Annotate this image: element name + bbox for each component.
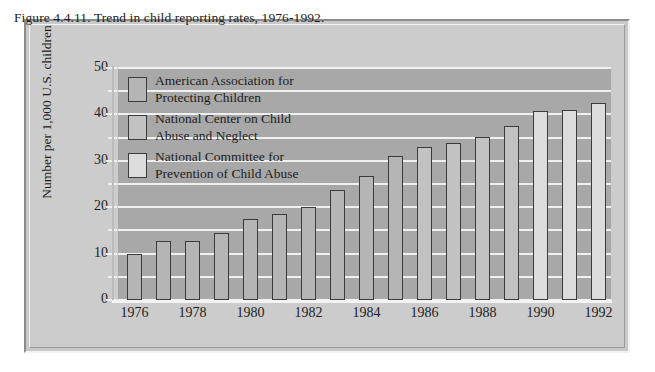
y-axis-line	[112, 66, 114, 302]
legend-swatch-1	[128, 115, 147, 140]
y-tick-label-20: 20	[74, 198, 108, 214]
bar-1980[interactable]	[243, 219, 259, 300]
y-tick-label-50: 50	[74, 59, 108, 75]
x-tick-label-1980: 1980	[237, 305, 265, 321]
bar-1977[interactable]	[156, 241, 172, 300]
bar-1987[interactable]	[446, 143, 462, 300]
bar-1981[interactable]	[272, 214, 288, 300]
y-tick-label-0: 0	[74, 291, 108, 307]
bar-1983[interactable]	[330, 190, 346, 300]
legend-label-1: National Center on Child Abuse and Negle…	[155, 111, 291, 144]
bar-1978[interactable]	[185, 241, 201, 300]
x-tick-label-1986: 1986	[411, 305, 439, 321]
legend-label-0: American Association for Protecting Chil…	[155, 73, 294, 106]
bar-1979[interactable]	[214, 233, 230, 300]
x-tick-label-1978: 1978	[179, 305, 207, 321]
legend-item-1[interactable]: National Center on Child Abuse and Negle…	[128, 112, 388, 145]
x-axis-tick-labels: 197619781980198219841986198819901992	[118, 305, 611, 327]
x-tick-label-1988: 1988	[469, 305, 497, 321]
bar-1982[interactable]	[301, 207, 317, 300]
x-tick-label-1982: 1982	[295, 305, 323, 321]
x-tick-label-1992: 1992	[585, 305, 613, 321]
bar-1976[interactable]	[127, 254, 143, 300]
bar-1990[interactable]	[533, 111, 549, 300]
legend-label-2: National Committee for Prevention of Chi…	[155, 149, 299, 182]
x-axis-line	[112, 300, 612, 303]
y-axis-tick-labels: 01020304050	[64, 68, 108, 300]
x-tick-label-1976: 1976	[121, 305, 149, 321]
bar-1991[interactable]	[562, 110, 578, 300]
y-axis-title: Number per 1,000 U.S. children	[39, 2, 55, 222]
bar-1992[interactable]	[591, 103, 607, 300]
legend-swatch-2	[128, 153, 147, 178]
x-tick-label-1984: 1984	[353, 305, 381, 321]
legend-item-0[interactable]: American Association for Protecting Chil…	[128, 74, 388, 107]
chart-legend: American Association for Protecting Chil…	[128, 74, 388, 188]
figure-root: Figure 4.4.11. Trend in child reporting …	[0, 0, 655, 372]
bar-1988[interactable]	[475, 137, 491, 300]
y-tick-label-30: 30	[74, 152, 108, 168]
legend-item-2[interactable]: National Committee for Prevention of Chi…	[128, 150, 388, 183]
figure-caption: Figure 4.4.11. Trend in child reporting …	[14, 10, 324, 26]
bar-1989[interactable]	[504, 126, 520, 300]
y-tick-label-40: 40	[74, 105, 108, 121]
legend-swatch-0	[128, 77, 147, 102]
bar-1986[interactable]	[417, 147, 433, 300]
bar-1984[interactable]	[359, 176, 375, 300]
y-tick-label-10: 10	[74, 245, 108, 261]
bar-1985[interactable]	[388, 156, 404, 300]
x-tick-label-1990: 1990	[527, 305, 555, 321]
